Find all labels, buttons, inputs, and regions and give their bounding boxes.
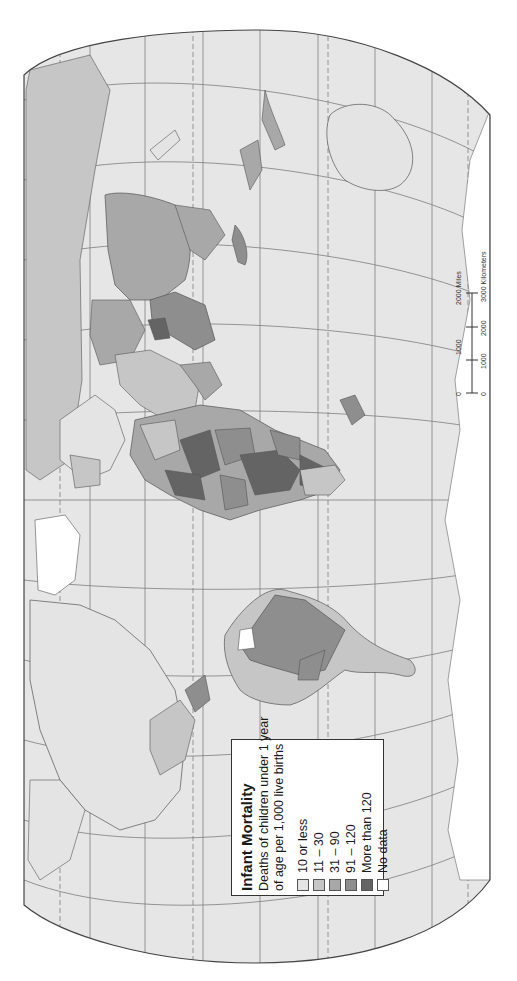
legend-item: 31 – 90 (327, 746, 343, 891)
scale-mile-tick-0: 0 (455, 392, 462, 396)
legend-swatch (329, 879, 341, 891)
legend-title: Infant Mortality (238, 746, 255, 891)
legend-item: More than 120 (359, 746, 375, 891)
scale-bar: 0 1000 2000 Miles 0 1000 2000 3000 Kilom… (452, 245, 492, 415)
legend-item: 11 – 30 (311, 746, 327, 891)
legend-label: 10 or less (296, 819, 310, 873)
legend-subtitle-line1: Deaths of children under 1 year (257, 746, 272, 891)
legend-label: 11 – 30 (312, 832, 326, 873)
legend-label: More than 120 (360, 792, 374, 873)
legend-subtitle-line2: of age per 1,000 live births (272, 746, 287, 891)
legend-item: No data (375, 746, 391, 891)
scale-km-tick-0: 0 (480, 392, 487, 396)
scale-mile-tick-1000: 1000 (455, 339, 462, 355)
legend-item: 91 – 120 (343, 746, 359, 891)
scale-miles-label: 2000 Miles (455, 271, 462, 305)
legend-label: 91 – 120 (344, 824, 358, 873)
scale-km-tick-1000: 1000 (480, 353, 487, 369)
scale-km-tick-2000: 2000 (480, 320, 487, 336)
legend-swatch (313, 879, 325, 891)
scale-km-label: 3000 Kilometers (480, 251, 487, 302)
legend-swatch (361, 879, 373, 891)
legend-swatch (297, 879, 309, 891)
legend-items: 10 or less 11 – 30 31 – 90 91 – 120 More… (295, 746, 391, 891)
legend-swatch (377, 879, 389, 891)
legend-label: 31 – 90 (328, 831, 342, 873)
legend-swatch (345, 879, 357, 891)
legend-label: No data (376, 829, 390, 873)
legend-item: 10 or less (295, 746, 311, 891)
legend: Infant Mortality Deaths of children unde… (231, 739, 384, 896)
